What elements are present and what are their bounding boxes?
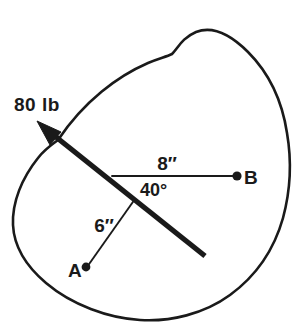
dimension-b-label: 8″: [157, 153, 177, 174]
point-a-dot: [82, 263, 91, 272]
free-body-diagram-figure: 80 lb 8″ 6″ 40° A B: [0, 0, 300, 333]
force-action-line: [46, 129, 205, 256]
point-b-label: B: [244, 167, 258, 188]
diagram-canvas: 80 lb 8″ 6″ 40° A B: [0, 0, 300, 333]
dimension-a-label: 6″: [94, 215, 114, 236]
point-a-label: A: [68, 260, 82, 281]
force-magnitude-label: 80 lb: [14, 94, 60, 115]
angle-label: 40°: [140, 180, 167, 200]
point-b-dot: [232, 171, 241, 180]
